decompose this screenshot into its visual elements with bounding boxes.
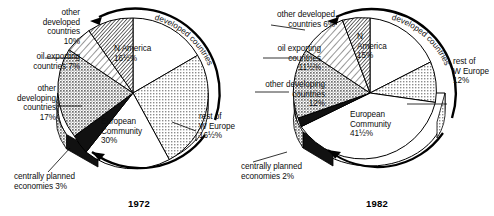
year-label-1982: 1982: [366, 198, 388, 209]
label-oil-exporting-1972: oil exporting countries 7%: [0, 52, 80, 71]
label-other-developed-1982: other developed countries 6%: [239, 10, 335, 29]
label-oil-exporting-1982: oil exporting countries 11½%: [239, 44, 321, 73]
label-european-community-1982: European Community 41½%: [350, 110, 424, 139]
label-centrally-planned-1972: centrally planned economies 3%: [14, 172, 124, 191]
pie-chart-1982: other developed countries 6% oil exporti…: [247, 0, 494, 216]
pie-chart-1972: other developed countries 10% oil export…: [0, 0, 247, 216]
label-other-developing-1972: other developing countries 17%: [0, 84, 56, 122]
label-european-community-1972: European Community 30%: [101, 117, 175, 146]
label-other-developing-1982: other developing countries 12%: [235, 80, 325, 109]
pie-slices-1972: [58, 18, 208, 169]
label-other-developed-1972: other developed countries 10%: [4, 8, 80, 46]
label-n-america-1972: N America 16½%: [114, 44, 184, 63]
label-n-america-1982: N America 15%: [357, 32, 417, 61]
label-rest-w-europe-1972: rest of W Europe 16½%: [199, 112, 247, 141]
year-label-1972: 1972: [128, 198, 150, 209]
label-rest-w-europe-1982: rest of W Europe 12%: [453, 57, 494, 86]
label-centrally-planned-1982: centrally planned economies 2%: [241, 162, 353, 181]
